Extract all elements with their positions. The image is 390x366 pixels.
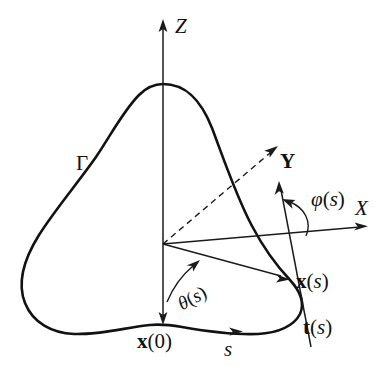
phi-arg: s xyxy=(330,187,338,211)
curve-gamma-label: Γ xyxy=(76,151,88,175)
tangent-close-paren: ) xyxy=(325,315,332,339)
start-point-symbol: x xyxy=(137,329,148,353)
position-point-close-paren: ) xyxy=(322,269,329,293)
x-axis-arrow-icon xyxy=(354,223,368,231)
phi-label: φ(s) xyxy=(311,187,345,211)
phi-symbol: φ xyxy=(311,187,323,211)
y-axis-arrow-icon xyxy=(264,146,278,158)
start-point-arg: 0 xyxy=(155,329,166,353)
start-point-open-paren: ( xyxy=(148,329,155,353)
position-vector-line xyxy=(163,244,281,276)
tangent-arg: s xyxy=(317,315,325,339)
figure-root: Z X Y Γ xyxy=(0,0,390,366)
tangent-label: t(s) xyxy=(303,315,332,339)
arclength-label: s xyxy=(224,337,232,361)
theta-label: θ(s) xyxy=(174,282,210,315)
theta-angle-group: θ(s) xyxy=(167,260,210,315)
geometry-diagram-svg: Z X Y Γ xyxy=(0,0,390,366)
position-point-open-paren: ( xyxy=(307,269,314,293)
x-axis-label: X xyxy=(354,196,369,220)
tangent-symbol: t xyxy=(303,315,310,339)
position-point-label: x(s) xyxy=(296,269,329,293)
curve-gamma-path xyxy=(22,84,302,334)
y-axis-group: Y xyxy=(163,146,295,244)
tangent-arrow-icon xyxy=(275,181,284,195)
z-axis-group: Z xyxy=(159,14,187,325)
position-point-arg: s xyxy=(314,269,322,293)
theta-label-group: θ(s) xyxy=(174,282,210,315)
z-axis-label: Z xyxy=(175,14,187,38)
start-point-label: x(0) xyxy=(137,329,172,353)
phi-open-paren: ( xyxy=(323,187,330,211)
position-point-symbol: x xyxy=(296,269,307,293)
curve-gamma-group xyxy=(22,84,302,334)
y-axis-label: Y xyxy=(280,149,295,173)
phi-arc-path xyxy=(290,202,308,236)
start-point-close-paren: ) xyxy=(165,329,172,353)
phi-close-paren: ) xyxy=(338,187,345,211)
tangent-open-paren: ( xyxy=(310,315,317,339)
